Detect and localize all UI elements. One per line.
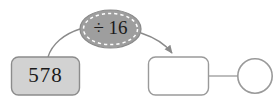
output-value-box[interactable] [149,57,209,95]
diagram-canvas: 578 ÷ 16 [0,0,276,102]
remainder-circle[interactable] [238,59,272,93]
input-to-operation-curve [48,29,80,57]
input-value-label: 578 [28,63,63,87]
operation-to-output-arrow [141,33,172,53]
function-machine-diagram: 578 ÷ 16 [0,0,276,102]
operation-label: ÷ 16 [93,17,127,38]
